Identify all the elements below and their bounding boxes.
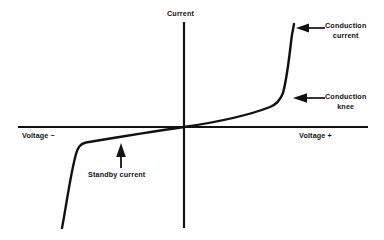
annotation-conduction-knee-line1: Conduction — [325, 92, 366, 102]
standby-current-arrow — [116, 143, 126, 168]
conduction-knee-arrow — [293, 93, 325, 103]
iv-curve-diagram: Current Voltage − Voltage + Conduction c… — [0, 0, 384, 240]
conduction-current-arrow — [296, 24, 325, 33]
axis-label-current: Current — [167, 9, 194, 19]
axis-label-voltage-negative: Voltage − — [22, 131, 55, 141]
annotation-conduction-current-line2: current — [325, 31, 366, 41]
annotation-conduction-current: Conduction current — [325, 21, 366, 40]
annotation-conduction-current-line1: Conduction — [325, 21, 366, 31]
annotation-conduction-knee: Conduction knee — [325, 92, 366, 111]
annotation-conduction-knee-line2: knee — [325, 102, 366, 112]
annotation-standby-current: Standby current — [88, 170, 145, 180]
axis-label-voltage-positive: Voltage + — [299, 131, 332, 141]
